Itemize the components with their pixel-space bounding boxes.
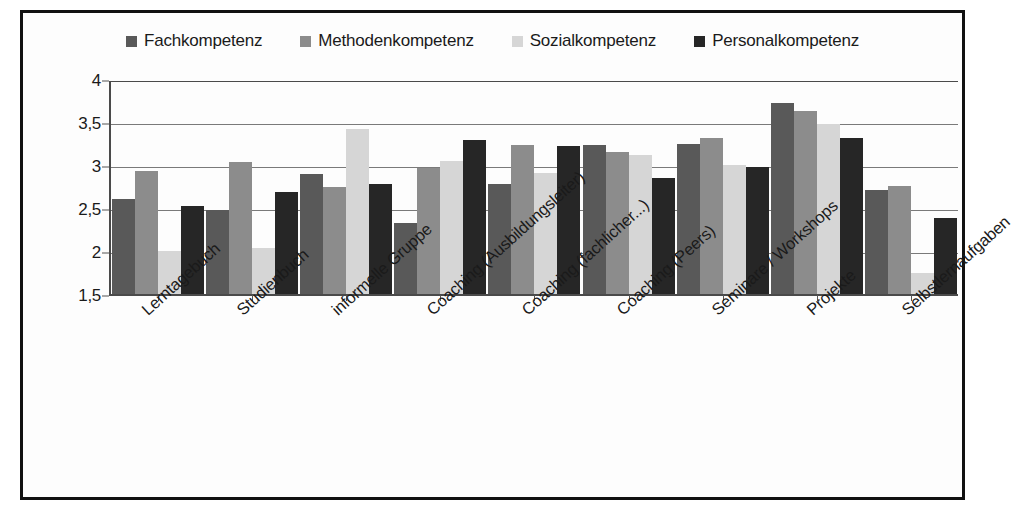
y-tick-label: 1,5 [78, 286, 101, 306]
y-tick-label: 2,5 [78, 200, 101, 220]
legend-item-sozialkompetenz[interactable]: Sozialkompetenz [512, 31, 656, 51]
y-tick-label: 4 [92, 71, 101, 91]
legend-swatch-icon [512, 36, 523, 47]
bar-fachkompetenz[interactable] [583, 145, 606, 294]
bar-fachkompetenz[interactable] [300, 174, 323, 294]
chart-legend: FachkompetenzMethodenkompetenzSozialkomp… [23, 31, 962, 51]
legend-item-personalkompetenz[interactable]: Personalkompetenz [694, 31, 859, 51]
legend-label: Personalkompetenz [712, 31, 859, 51]
bar-fachkompetenz[interactable] [112, 199, 135, 294]
legend-label: Fachkompetenz [144, 31, 262, 51]
legend-label: Methodenkompetenz [318, 31, 473, 51]
y-tick-mark [102, 253, 109, 254]
bar-methodenkompetenz[interactable] [700, 138, 723, 294]
bar-methodenkompetenz[interactable] [888, 186, 911, 294]
y-tick-label: 3 [92, 157, 101, 177]
bar-methodenkompetenz[interactable] [229, 162, 252, 294]
y-tick-mark [102, 124, 109, 125]
y-tick-mark [102, 210, 109, 211]
x-axis-category-labels: LerntagebuchStudienbuchinformelle Gruppe… [109, 299, 964, 439]
y-tick-label: 2 [92, 243, 101, 263]
legend-item-fachkompetenz[interactable]: Fachkompetenz [126, 31, 262, 51]
chart-frame: FachkompetenzMethodenkompetenzSozialkomp… [20, 10, 965, 500]
plot-area [109, 81, 958, 296]
bar-methodenkompetenz[interactable] [794, 111, 817, 294]
bar-methodenkompetenz[interactable] [135, 171, 158, 294]
y-tick-mark [102, 167, 109, 168]
legend-swatch-icon [126, 36, 137, 47]
legend-swatch-icon [694, 36, 705, 47]
y-tick-label: 3,5 [78, 114, 101, 134]
legend-item-methodenkompetenz[interactable]: Methodenkompetenz [300, 31, 473, 51]
bar-fachkompetenz[interactable] [865, 190, 888, 294]
bars-layer [111, 81, 958, 294]
y-tick-mark [102, 81, 109, 82]
y-tick-mark [102, 296, 109, 297]
bar-methodenkompetenz[interactable] [323, 187, 346, 295]
legend-label: Sozialkompetenz [530, 31, 656, 51]
legend-swatch-icon [300, 36, 311, 47]
bar-fachkompetenz[interactable] [677, 144, 700, 295]
y-axis: 1,522,533,54 [63, 81, 109, 296]
